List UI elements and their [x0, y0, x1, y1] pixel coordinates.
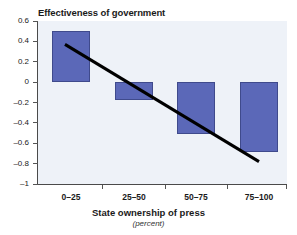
y-tick-mark	[33, 143, 38, 144]
x-axis-label-3: 75–100	[245, 192, 273, 202]
y-tick-7: –0.8	[0, 159, 38, 169]
y-tick-6: –0.6	[0, 138, 38, 148]
y-tick-8: –1	[0, 179, 38, 189]
x-axis-label-1: 25–50	[122, 192, 146, 202]
y-tick-label: 0.6	[18, 16, 29, 26]
bar-chart-figure: Effectiveness of government 0.6 0.4 0.2 …	[0, 0, 297, 235]
y-tick-mark	[33, 82, 38, 83]
chart-title: Effectiveness of government	[38, 7, 165, 18]
y-tick-mark	[33, 102, 38, 103]
y-tick-mark	[33, 163, 38, 164]
x-tick-mark-1	[165, 185, 166, 189]
x-tick-mark-3	[286, 185, 287, 189]
y-tick-mark	[33, 122, 38, 123]
x-axis-subtitle: (percent)	[0, 219, 297, 228]
x-axis-label-2: 50–75	[184, 192, 208, 202]
x-tick-mark-0	[102, 185, 103, 189]
x-axis-label-0: 0–25	[62, 192, 81, 202]
y-tick-mark	[33, 184, 38, 185]
y-tick-label: –0.2	[13, 98, 29, 108]
y-tick-label: –0.6	[13, 138, 29, 148]
y-tick-mark	[33, 21, 38, 22]
bar-1	[115, 82, 153, 100]
y-tick-label: 0	[25, 77, 29, 87]
x-axis-line	[37, 184, 287, 185]
bar-2	[177, 82, 215, 134]
y-tick-4: –0.2	[0, 98, 38, 108]
y-tick-label: –1	[20, 179, 29, 189]
y-tick-label: 0.4	[18, 36, 29, 46]
bar-3	[240, 82, 278, 152]
y-tick-mark	[33, 61, 38, 62]
y-tick-mark	[33, 41, 38, 42]
y-tick-0: 0.6	[0, 16, 38, 26]
bar-0	[52, 31, 90, 82]
y-tick-label: –0.4	[13, 118, 29, 128]
x-axis-title: State ownership of press	[0, 207, 297, 218]
x-tick-mark-2	[227, 185, 228, 189]
y-tick-1: 0.4	[0, 36, 38, 46]
y-tick-label: 0.2	[18, 57, 29, 67]
y-tick-3: 0	[0, 77, 38, 87]
y-tick-2: 0.2	[0, 57, 38, 67]
y-tick-label: –0.8	[13, 159, 29, 169]
y-tick-5: –0.4	[0, 118, 38, 128]
